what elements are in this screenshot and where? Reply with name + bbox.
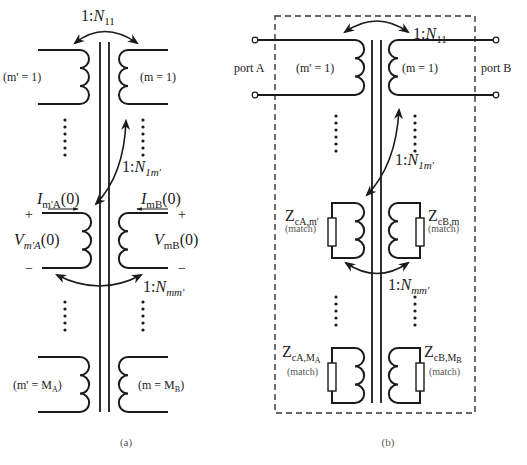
- ratio-label-mm: 1:Nmm': [388, 276, 430, 296]
- current-label-right: ImB(0): [140, 190, 181, 210]
- ratio-label-1m: 1:N1m': [122, 158, 162, 178]
- match-label: (match): [285, 223, 316, 235]
- minus-left: −: [25, 261, 33, 276]
- coil-label-top-right: (m = 1): [140, 70, 176, 84]
- panel-b: 1:N11 port A port B (m' = 1) (m = 1) 1:N…: [234, 16, 511, 449]
- impedance-label-bottom-right: ZcB,MB: [424, 343, 462, 365]
- coupling-arrow-11: [345, 21, 408, 32]
- coil-pair-middle: [42, 213, 168, 268]
- plus-right: +: [178, 207, 186, 222]
- port-a-terminal-bottom: [252, 92, 258, 98]
- coupling-arrow-mm: [57, 275, 141, 286]
- minus-right: −: [178, 261, 186, 276]
- port-a-terminal-top: [252, 37, 258, 43]
- ratio-label-1m: 1:N1m': [395, 151, 435, 171]
- match-label: (match): [428, 223, 459, 235]
- match-label: (match): [429, 366, 460, 378]
- ellipsis-dots: [334, 114, 416, 326]
- coil-label-top-left: (m' = 1): [296, 61, 334, 75]
- coupling-arrow-mm: [346, 263, 408, 274]
- impedance-label-bottom-left: ZcA,MA: [282, 343, 321, 365]
- ratio-label-11: 1:N11: [413, 25, 447, 45]
- coil-label-top-right: (m = 1): [402, 61, 438, 75]
- port-a-label: port A: [234, 61, 265, 75]
- voltage-label-right: VmB(0): [154, 231, 198, 251]
- current-label-left: Im'A(0): [36, 190, 79, 210]
- coupled-transformer-diagram: 1:N11 (m' = 1) (m = 1) 1:N1m' Im'A(0) Im…: [0, 0, 527, 465]
- coil-pair-top: [252, 37, 499, 98]
- ellipsis-dots: [63, 118, 144, 331]
- coupling-arrow-11: [75, 32, 137, 44]
- plus-left: +: [25, 207, 33, 222]
- match-resistor-right: [416, 218, 424, 246]
- match-label: (match): [287, 366, 318, 378]
- panel-a: 1:N11 (m' = 1) (m = 1) 1:N1m' Im'A(0) Im…: [3, 7, 198, 449]
- ratio-label-11: 1:N11: [81, 7, 115, 27]
- port-b-terminal-top: [493, 37, 499, 43]
- match-resistor-left: [328, 218, 336, 246]
- voltage-label-left: Vm'A(0): [14, 231, 59, 251]
- coil-loop-bottom: [328, 348, 424, 403]
- ratio-label-mm: 1:Nmm': [143, 278, 185, 298]
- coil-label-bottom-left: (m' = MA): [13, 378, 62, 394]
- port-b-terminal-bottom: [493, 92, 499, 98]
- caption-a: (a): [120, 436, 133, 449]
- coil-label-bottom-right: (m = MB): [138, 378, 184, 394]
- match-resistor-left: [328, 363, 336, 391]
- coil-label-top-left: (m' = 1): [3, 70, 41, 84]
- match-resistor-right: [416, 363, 424, 391]
- caption-b: (b): [382, 436, 395, 449]
- coil-loop-middle: [328, 203, 424, 258]
- port-b-label: port B: [481, 61, 511, 75]
